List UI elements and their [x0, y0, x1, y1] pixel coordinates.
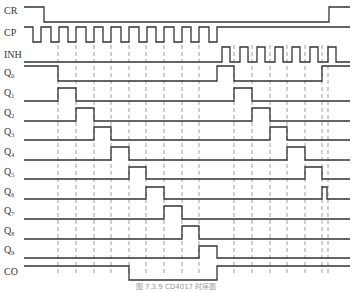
waveform-q4	[24, 147, 350, 160]
signal-labels: CRCPINHQ0Q1Q2Q3Q4Q5Q6Q7Q8Q9CO	[4, 5, 22, 277]
waveform-cr	[24, 7, 350, 22]
waveform-q5	[24, 167, 350, 179]
signal-label-q9: Q9	[4, 244, 14, 256]
waveform-q3	[24, 127, 350, 140]
signal-label-q7: Q7	[4, 205, 14, 217]
signal-label-q3: Q3	[4, 126, 14, 138]
signal-label-q5: Q5	[4, 166, 14, 178]
signal-label-cp: CP	[4, 27, 17, 38]
waveform-q9	[24, 246, 350, 258]
signal-label-q6: Q6	[4, 186, 14, 198]
signal-label-q4: Q4	[4, 146, 14, 158]
waveform-q1	[24, 88, 350, 101]
figure-caption: 图 7.3.9 CD4017 时序图	[136, 282, 217, 291]
signal-label-inh: INH	[4, 49, 22, 60]
signal-label-q0: Q0	[4, 67, 14, 79]
waveform-q6	[24, 187, 350, 199]
signal-label-co: CO	[4, 266, 18, 277]
waveform-q2	[24, 108, 350, 121]
signal-waveforms	[24, 7, 350, 280]
signal-label-q1: Q1	[4, 87, 14, 99]
waveform-inh	[24, 47, 350, 62]
signal-label-q2: Q2	[4, 107, 14, 119]
waveform-q7	[24, 206, 350, 219]
signal-label-cr: CR	[4, 5, 18, 16]
signal-label-q8: Q8	[4, 225, 14, 237]
timing-diagram: CRCPINHQ0Q1Q2Q3Q4Q5Q6Q7Q8Q9CO 图 7.3.9 CD…	[0, 0, 353, 292]
waveform-cp	[24, 27, 350, 42]
waveform-co	[24, 266, 350, 280]
waveform-q8	[24, 226, 350, 239]
waveform-q0	[24, 66, 350, 81]
